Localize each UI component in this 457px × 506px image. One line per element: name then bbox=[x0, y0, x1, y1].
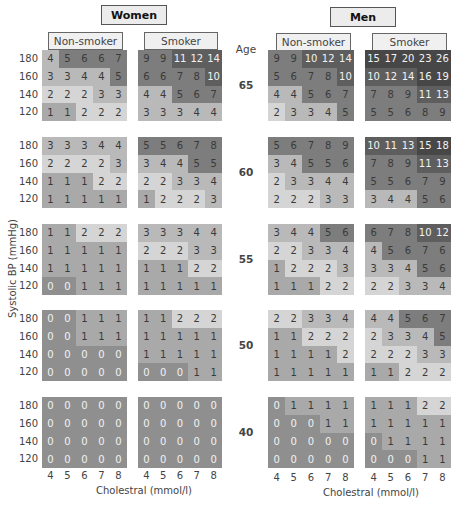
risk-cell: 3 bbox=[138, 155, 155, 173]
women-nonsmoker-header: Non-smoker bbox=[48, 32, 123, 50]
risk-cell: 2 bbox=[337, 328, 354, 346]
men-header: Men bbox=[330, 7, 396, 27]
risk-cell: 5 bbox=[188, 155, 205, 173]
risk-cell: 1 bbox=[172, 346, 189, 364]
risk-cell: 0 bbox=[93, 346, 110, 364]
risk-cell: 1 bbox=[302, 346, 319, 364]
women-x-axis-title: Cholestral (mmol/l) bbox=[96, 485, 192, 496]
risk-cell: 0 bbox=[138, 450, 155, 468]
risk-cell: 3 bbox=[138, 224, 155, 242]
women-nonsmoker-grid-age-50: 00111001110000000000 bbox=[42, 310, 127, 381]
risk-cell: 2 bbox=[172, 310, 189, 328]
risk-cell: 0 bbox=[59, 346, 76, 364]
risk-cell: 1 bbox=[110, 277, 127, 295]
cholesterol-tick-4: 4 bbox=[138, 470, 155, 481]
risk-cell: 0 bbox=[382, 450, 399, 468]
risk-cell: 4 bbox=[337, 242, 354, 260]
cholesterol-tick-8: 8 bbox=[337, 472, 354, 483]
risk-cell: 10 bbox=[205, 68, 222, 86]
risk-cell: 3 bbox=[155, 103, 172, 121]
risk-cell: 15 bbox=[417, 137, 434, 155]
risk-cell: 1 bbox=[93, 190, 110, 208]
risk-cell: 0 bbox=[155, 397, 172, 415]
risk-cell: 1 bbox=[268, 328, 285, 346]
risk-cell: 5 bbox=[302, 155, 319, 173]
risk-cell: 2 bbox=[382, 277, 399, 295]
men-smoker-grid-age-55: 6781012456763345622334 bbox=[365, 224, 451, 295]
risk-cell: 0 bbox=[205, 433, 222, 451]
bp-label-180: 180 bbox=[10, 53, 38, 64]
risk-cell: 7 bbox=[205, 86, 222, 104]
risk-cell: 2 bbox=[188, 310, 205, 328]
risk-cell: 0 bbox=[76, 346, 93, 364]
risk-cell: 1 bbox=[59, 242, 76, 260]
risk-cell: 5 bbox=[110, 68, 127, 86]
risk-cell: 0 bbox=[302, 450, 319, 468]
cholesterol-tick-6: 6 bbox=[303, 472, 320, 483]
risk-cell: 0 bbox=[42, 346, 59, 364]
risk-cell: 8 bbox=[188, 68, 205, 86]
risk-cell: 4 bbox=[365, 242, 382, 260]
bp-label-140: 140 bbox=[10, 89, 38, 100]
risk-cell: 6 bbox=[337, 155, 354, 173]
risk-cell: 15 bbox=[365, 50, 382, 68]
risk-cell: 2 bbox=[188, 190, 205, 208]
risk-cell: 0 bbox=[337, 433, 354, 451]
risk-cell: 1 bbox=[138, 346, 155, 364]
risk-cell: 1 bbox=[205, 363, 222, 381]
risk-cell: 0 bbox=[302, 433, 319, 451]
risk-cell: 10 bbox=[302, 50, 319, 68]
risk-cell: 3 bbox=[337, 190, 354, 208]
risk-cell: 17 bbox=[382, 50, 399, 68]
risk-cell: 5 bbox=[205, 155, 222, 173]
risk-cell: 8 bbox=[382, 155, 399, 173]
risk-cell: 3 bbox=[93, 86, 110, 104]
men-x-axis-title: Cholestral (mmol/l) bbox=[323, 487, 419, 498]
risk-cell: 19 bbox=[434, 68, 451, 86]
bp-label-120: 120 bbox=[10, 193, 38, 204]
risk-cell: 2 bbox=[268, 190, 285, 208]
risk-cell: 2 bbox=[93, 173, 110, 191]
risk-cell: 0 bbox=[59, 363, 76, 381]
risk-cell: 1 bbox=[155, 277, 172, 295]
risk-cell: 3 bbox=[285, 173, 302, 191]
bp-label-140: 140 bbox=[10, 436, 38, 447]
risk-cell: 3 bbox=[110, 86, 127, 104]
risk-cell: 0 bbox=[59, 450, 76, 468]
cholesterol-tick-4: 4 bbox=[268, 472, 285, 483]
risk-cell: 2 bbox=[138, 242, 155, 260]
risk-cell: 0 bbox=[138, 363, 155, 381]
risk-cell: 1 bbox=[434, 415, 451, 433]
risk-cell: 7 bbox=[365, 155, 382, 173]
risk-cell: 1 bbox=[399, 415, 416, 433]
cholesterol-tick-5: 5 bbox=[382, 472, 399, 483]
risk-cell: 5 bbox=[382, 242, 399, 260]
risk-cell: 2 bbox=[155, 242, 172, 260]
risk-cell: 3 bbox=[382, 260, 399, 278]
risk-cell: 6 bbox=[320, 86, 337, 104]
risk-cell: 1 bbox=[42, 103, 59, 121]
risk-cell: 12 bbox=[382, 68, 399, 86]
risk-cell: 3 bbox=[302, 242, 319, 260]
risk-cell: 4 bbox=[337, 173, 354, 191]
risk-cell: 1 bbox=[59, 190, 76, 208]
risk-cell: 4 bbox=[205, 173, 222, 191]
risk-cell: 1 bbox=[59, 103, 76, 121]
risk-cell: 2 bbox=[320, 277, 337, 295]
women-smoker-grid-age-40: 00000000000000000000 bbox=[138, 397, 222, 468]
risk-cell: 6 bbox=[365, 224, 382, 242]
risk-cell: 2 bbox=[268, 173, 285, 191]
risk-cell: 2 bbox=[268, 103, 285, 121]
risk-cell: 2 bbox=[417, 363, 434, 381]
risk-cell: 6 bbox=[188, 86, 205, 104]
risk-cell: 1 bbox=[138, 310, 155, 328]
risk-cell: 0 bbox=[59, 328, 76, 346]
risk-cell: 0 bbox=[59, 277, 76, 295]
risk-cell: 1 bbox=[365, 363, 382, 381]
risk-cell: 1 bbox=[268, 277, 285, 295]
age-label-50: 50 bbox=[231, 339, 261, 351]
risk-cell: 1 bbox=[155, 310, 172, 328]
risk-cell: 3 bbox=[172, 224, 189, 242]
risk-cell: 8 bbox=[417, 103, 434, 121]
risk-cell: 4 bbox=[285, 224, 302, 242]
